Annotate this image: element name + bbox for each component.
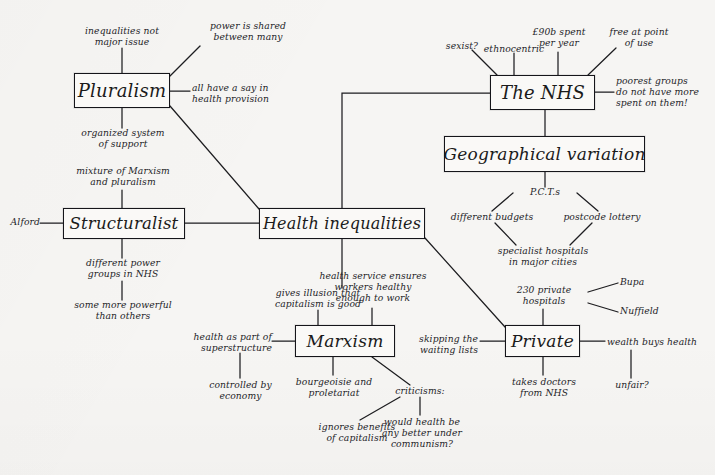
note-inequalities-not-major: inequalities not major issue: [62, 25, 182, 47]
note-poorest-groups: poorest groups do not have more spent on…: [616, 75, 714, 109]
node-geographical-variation-label: Geographical variation: [443, 145, 645, 163]
wire-privatehosp-bupa: [588, 283, 618, 292]
node-private[interactable]: Private: [505, 325, 580, 357]
wire-pluralism-powershared: [170, 46, 200, 76]
note-different-budgets: different budgets: [440, 211, 544, 222]
note-alford: Alford: [0, 216, 40, 227]
note-power-is-shared: power is shared between many: [188, 20, 308, 42]
node-structuralist[interactable]: Structuralist: [63, 208, 185, 239]
note-unfair: unfair?: [605, 379, 659, 390]
wire-nhs-free: [588, 48, 616, 75]
node-health-inequalities[interactable]: Health inequalities: [259, 208, 425, 239]
wire-pcts-budgets: [492, 193, 513, 211]
node-marxism[interactable]: Marxism: [295, 325, 395, 357]
node-pluralism[interactable]: Pluralism: [74, 73, 170, 108]
note-would-health-be-better: would health be any better under communi…: [368, 416, 476, 450]
note-some-more-powerful: some more powerful than others: [55, 299, 191, 321]
note-health-service-ensures: health service ensures workers healthy e…: [314, 270, 432, 304]
note-skipping-waiting-lists: skipping the waiting lists: [400, 333, 478, 355]
node-the-nhs[interactable]: The NHS: [490, 75, 595, 110]
wire-pluralism-health: [170, 106, 259, 209]
wire-pcts-postcode: [577, 193, 598, 211]
note-bourgeoisie-proletariat: bourgeoisie and proletariat: [279, 376, 389, 398]
note-specialist-hospitals: specialist hospitals in major cities: [488, 245, 598, 267]
note-controlled-by-economy: controlled by economy: [193, 379, 288, 401]
node-private-label: Private: [511, 332, 574, 350]
node-structuralist-label: Structuralist: [70, 215, 179, 233]
note-takes-doctors: takes doctors from NHS: [503, 376, 585, 398]
note-nuffield: Nuffield: [620, 305, 690, 316]
note-230-private-hospitals: 230 private hospitals: [503, 284, 585, 306]
note-postcode-lottery: postcode lottery: [552, 211, 652, 222]
note-bupa: Bupa: [620, 276, 680, 287]
mindmap-canvas: Pluralism Structuralist Health inequalit…: [0, 0, 715, 475]
note-all-have-a-say: all have a say in health provision: [192, 82, 312, 104]
note-spend-per-year: £90b spent per year: [524, 26, 594, 48]
node-the-nhs-label: The NHS: [500, 83, 585, 102]
note-mixture-of-marxism: mixture of Marxism and pluralism: [58, 165, 188, 187]
note-criticisms: criticisms:: [388, 385, 452, 396]
note-pcts: P.C.T.s: [518, 186, 572, 197]
note-free-at-point-of-use: free at point of use: [601, 26, 677, 48]
node-health-inequalities-label: Health inequalities: [263, 215, 421, 232]
wire-privatehosp-nuffield: [588, 303, 618, 312]
note-health-as-part-of-superstructure: health as part of superstructure: [172, 331, 272, 353]
node-pluralism-label: Pluralism: [78, 81, 166, 100]
node-marxism-label: Marxism: [307, 332, 384, 350]
note-organized-system: organized system of support: [62, 127, 184, 149]
wire-budgets-specialist: [495, 223, 516, 245]
wire-postcode-specialist: [570, 223, 592, 245]
node-geographical-variation[interactable]: Geographical variation: [444, 136, 645, 172]
note-different-power-groups: different power groups in NHS: [62, 257, 184, 279]
note-wealth-buys-health: wealth buys health: [607, 336, 715, 347]
